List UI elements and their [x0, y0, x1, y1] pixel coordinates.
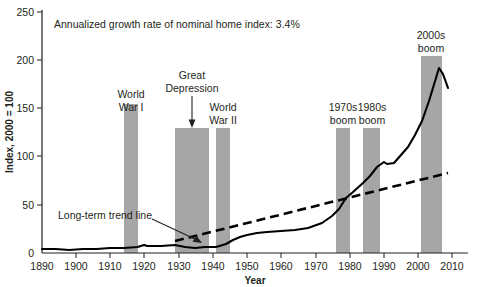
band-1970s-boom: [336, 128, 350, 253]
band-2000s-boom: [421, 56, 442, 253]
label-world-war-ii-line2: War II: [209, 114, 237, 126]
xtick-1980: 1980: [338, 260, 362, 272]
annotation-long-term-trend-line: Long-term trend line: [58, 209, 152, 221]
label-1980s-boom-line2: boom: [359, 114, 386, 126]
label-1970s-boom-line2: boom: [330, 114, 357, 126]
ytick-100: 100: [16, 150, 34, 162]
label-2000s-boom-line2: boom: [418, 42, 445, 54]
band-world-war-i: [124, 104, 138, 253]
label-world-war-ii-line1: World: [209, 101, 236, 113]
ytick-150: 150: [16, 102, 34, 114]
label-great-depression-line2: Depression: [165, 82, 218, 94]
band-1980s-boom: [363, 128, 380, 253]
label-1980s-boom-line1: 1980s: [358, 101, 387, 113]
label-world-war-i-line2: War I: [119, 101, 144, 113]
x-axis-title: Year: [244, 275, 265, 286]
y-axis-title: Index, 2000 = 100: [4, 91, 15, 173]
xtick-2010: 2010: [440, 260, 464, 272]
label-great-depression-line1: Great: [179, 69, 205, 81]
label-world-war-i-line1: World: [117, 88, 144, 100]
xtick-1940: 1940: [201, 260, 225, 272]
xtick-1970: 1970: [304, 260, 328, 272]
ytick-50: 50: [22, 199, 34, 211]
xtick-1950: 1950: [235, 260, 259, 272]
xtick-1890: 1890: [30, 260, 54, 272]
ytick-0: 0: [28, 247, 34, 259]
xtick-1920: 1920: [132, 260, 156, 272]
xtick-1990: 1990: [372, 260, 396, 272]
xtick-1900: 1900: [64, 260, 88, 272]
label-2000s-boom-line1: 2000s: [417, 29, 446, 41]
ytick-200: 200: [16, 54, 34, 66]
band-world-war-ii: [216, 128, 230, 253]
xtick-1930: 1930: [167, 260, 191, 272]
xtick-2000: 2000: [406, 260, 430, 272]
label-1970s-boom-line1: 1970s: [329, 101, 358, 113]
xtick-1960: 1960: [269, 260, 293, 272]
xtick-1910: 1910: [98, 260, 122, 272]
chart-svg: 250 200 150 100 50 0 1890 1900 1910 1920: [0, 0, 477, 287]
chart-title: Annualized growth rate of nominal home i…: [54, 18, 300, 30]
chart-background: [0, 0, 477, 287]
ytick-250: 250: [16, 6, 34, 18]
home-price-index-chart: 250 200 150 100 50 0 1890 1900 1910 1920: [0, 0, 477, 287]
